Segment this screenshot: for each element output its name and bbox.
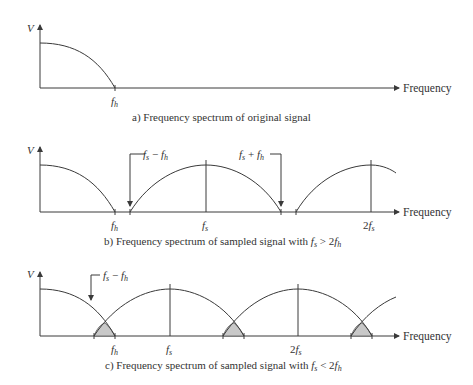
tick-label-fh: fh xyxy=(111,343,118,357)
tick-label-fh: fh xyxy=(111,95,118,109)
annotation-arrow-fs-minus-fh xyxy=(130,154,145,206)
sampling-spectrum-diagram: V Frequency fh a) Frequency spectrum of … xyxy=(0,0,473,385)
annotation-fs-minus-fh: fs − fh xyxy=(143,148,168,162)
caption-b: b) Frequency spectrum of sampled signal … xyxy=(104,235,341,249)
caption-a: a) Frequency spectrum of original signal xyxy=(132,111,311,124)
y-axis-label: V xyxy=(27,144,35,156)
tick-label-2fs: 2fs xyxy=(290,343,302,357)
baseband-lobe xyxy=(40,165,115,212)
alias-region-3 xyxy=(351,323,372,336)
y-axis-label: V xyxy=(27,268,35,280)
x-axis-label: Frequency xyxy=(403,330,452,343)
spectrum-curve xyxy=(40,43,115,88)
panel-a: V Frequency fh a) Frequency spectrum of … xyxy=(27,22,452,124)
annotation-fs-minus-fh: fs − fh xyxy=(103,269,128,283)
tick-label-fs: fs xyxy=(166,343,172,357)
annotation-arrow-fs-minus-fh xyxy=(91,275,100,300)
panel-b: V Frequency fs − fh fs + fh fh fs 2fs b)… xyxy=(27,144,452,249)
x-axis-label: Frequency xyxy=(403,82,452,95)
annotation-fs-plus-fh: fs + fh xyxy=(239,148,264,162)
panel-c: V Frequency fs − fh fh fs 2fs c) Frequen… xyxy=(27,268,452,373)
alias-region-1 xyxy=(94,323,115,336)
tick-label-2fs: 2fs xyxy=(363,219,375,233)
x-axis-label: Frequency xyxy=(403,206,452,219)
tick-label-fs: fs xyxy=(202,219,208,233)
y-axis-label: V xyxy=(27,22,35,34)
fs-lobe xyxy=(94,289,244,336)
2fs-lobe xyxy=(296,165,396,212)
tick-label-fh: fh xyxy=(111,219,118,233)
caption-c: c) Frequency spectrum of sampled signal … xyxy=(105,359,342,373)
alias-region-2 xyxy=(223,323,244,336)
